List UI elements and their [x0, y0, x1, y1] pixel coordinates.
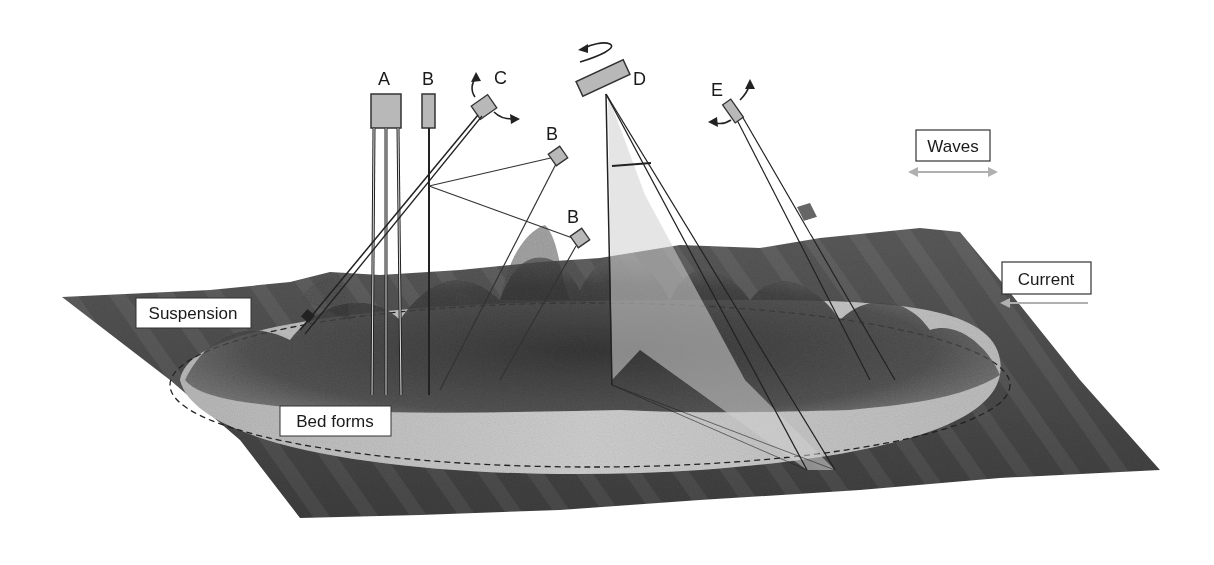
label-d: D [633, 69, 646, 89]
suspension-label: Suspension [149, 304, 238, 323]
bed-forms-label: Bed forms [296, 412, 373, 431]
waves-indicator: Waves [908, 130, 998, 177]
waves-label: Waves [927, 137, 978, 156]
label-e: E [711, 80, 723, 100]
label-b-upper: B [546, 124, 558, 144]
label-b-lower: B [567, 207, 579, 227]
label-a: A [378, 69, 390, 89]
bed-forms-callout: Bed forms [280, 406, 391, 436]
label-c: C [494, 68, 507, 88]
current-label: Current [1018, 270, 1075, 289]
suspension-callout: Suspension [136, 298, 251, 328]
label-b-top: B [422, 69, 434, 89]
instrument-b-lower: B [567, 207, 590, 248]
diagram-canvas: A B B B C [0, 0, 1214, 565]
instrument-b-upper: B [546, 124, 568, 166]
